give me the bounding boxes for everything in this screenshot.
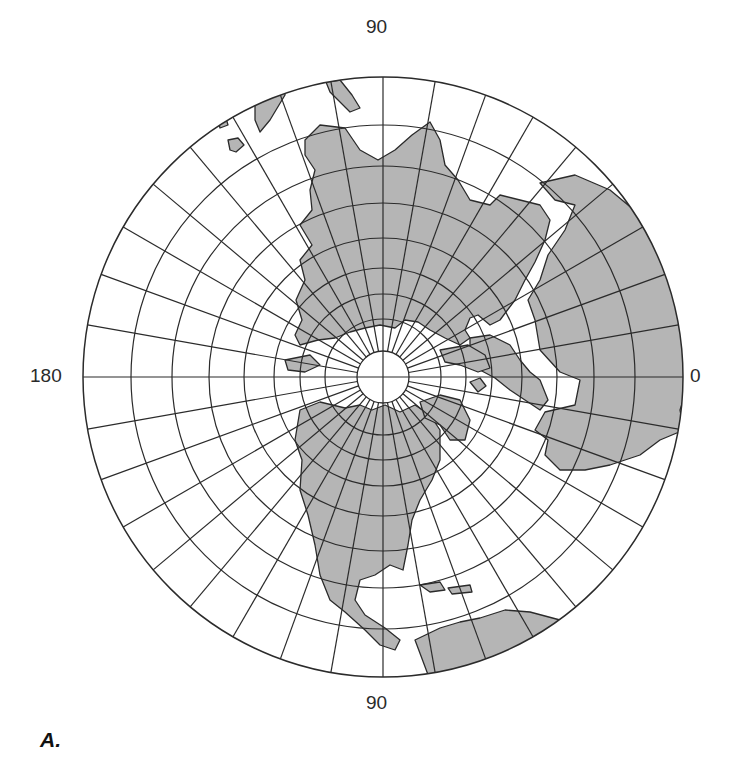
land-islands-1 bbox=[228, 138, 244, 152]
polar-map bbox=[0, 0, 738, 767]
panel-label: A. bbox=[40, 728, 61, 752]
land-kamchatka bbox=[255, 80, 285, 132]
label-longitude-top: 90 bbox=[366, 16, 387, 38]
label-longitude-left: 180 bbox=[30, 365, 62, 387]
land-britain bbox=[470, 378, 486, 392]
land-africa bbox=[528, 175, 690, 470]
land-south-america bbox=[415, 610, 620, 700]
label-longitude-right: 0 bbox=[690, 365, 701, 387]
graticule bbox=[83, 77, 683, 677]
label-longitude-bottom: 90 bbox=[366, 692, 387, 714]
